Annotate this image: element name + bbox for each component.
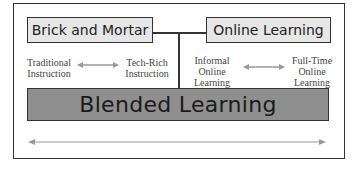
brick-and-mortar-label: Brick and Mortar [32,22,149,38]
tech-rich-instruction-label: Tech-Rich Instruction [118,57,176,79]
online-learning-box: Online Learning [206,17,331,43]
online-learning-label: Online Learning [213,22,323,38]
connector-vertical [178,32,180,88]
spectrum-double-arrow-icon [28,138,326,146]
informal-online-learning-label: Informal Online Learning [186,55,238,88]
left-double-arrow-icon [77,61,119,69]
right-double-arrow-icon [243,63,285,71]
connector-horizontal [153,32,206,34]
blended-learning-box: Blended Learning [27,88,329,121]
brick-and-mortar-box: Brick and Mortar [27,17,153,43]
full-time-online-learning-label: Full-Time Online Learning [285,55,339,88]
traditional-instruction-label: Traditional Instruction [20,57,78,79]
blended-learning-label: Blended Learning [79,92,276,117]
